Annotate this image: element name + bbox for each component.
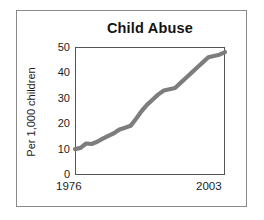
y-tick-label-40: 40 xyxy=(44,67,70,78)
plot-area xyxy=(75,47,225,175)
page-title: Child Abuse xyxy=(60,20,240,36)
y-tick-label-30: 30 xyxy=(44,93,70,104)
y-tick-label-20: 20 xyxy=(44,118,70,129)
y-tick-label-50: 50 xyxy=(44,42,70,53)
y-tick-label-10: 10 xyxy=(44,144,70,155)
x-tick-label-start: 1976 xyxy=(56,180,82,192)
y-tick-label-0: 0 xyxy=(44,169,70,180)
x-tick-label-end: 2003 xyxy=(196,180,222,192)
data-series-line xyxy=(75,52,225,149)
chart-figure: Child Abuse Per 1,000 children 50 40 30 … xyxy=(0,0,264,220)
y-axis-label: Per 1,000 children xyxy=(25,52,37,172)
